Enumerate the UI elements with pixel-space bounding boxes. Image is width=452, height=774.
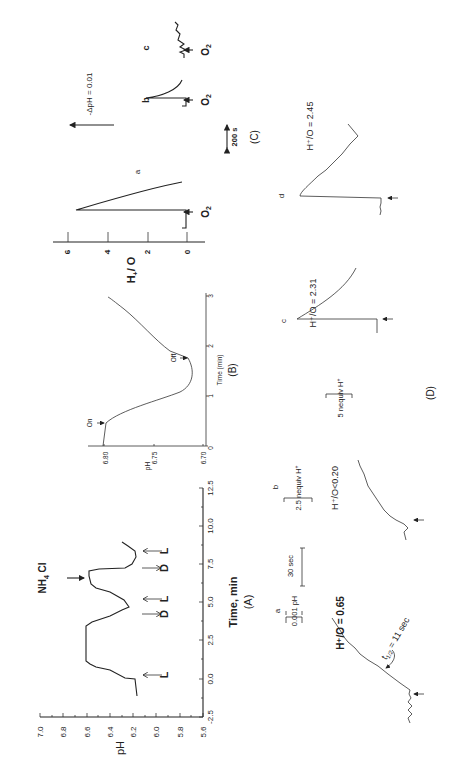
panel-c-ylabel: H+/ O — [125, 256, 139, 283]
panel-d-trace-b — [358, 460, 408, 540]
panel-a-time-ticks — [199, 488, 203, 717]
tick-label: 6.70 — [200, 451, 207, 464]
tick-label: 5.6 — [199, 726, 208, 738]
tick-label: 6.6 — [83, 726, 92, 738]
ratio-d-label: H⁺/O = 2.45 — [305, 102, 315, 151]
trace-a-label: a — [133, 169, 142, 174]
panel-c-label: (C) — [249, 130, 260, 144]
label-dark: D — [158, 564, 170, 572]
panel-a-label: (A) — [242, 595, 254, 610]
trace-c-label: c — [279, 319, 288, 323]
panel-c-trace-a — [76, 182, 186, 228]
figure-canvas: 12.5 10.0 7.5 5.0 2.5 0.0 -2.5 Time, min… — [0, 0, 452, 774]
panel-b-xlabel: Time (min) — [216, 355, 224, 386]
panel-a-ylabel: pH — [114, 741, 126, 755]
tick-label: 10.0 — [206, 518, 215, 534]
tick-label: 6.8 — [59, 726, 68, 738]
ph-scale-label: 0.001 pH — [290, 596, 299, 626]
trace-a-label: a — [273, 608, 282, 613]
panel-d: a 0.001 pH 30 sec b 2.5 nequiv H+ H⁺/O =… — [271, 102, 436, 723]
tick-label: 0 — [183, 249, 192, 254]
panel-a-xlabel: Time, min — [227, 576, 239, 627]
trace-d-label: d — [277, 194, 286, 198]
tick-label: 6 — [63, 249, 72, 254]
equiv-b-scale-label: 2.5 nequiv H+ — [293, 465, 303, 510]
tick-label: 3 — [207, 294, 214, 298]
panel-a-time-tick-labels: 12.5 10.0 7.5 5.0 2.5 0.0 -2.5 — [206, 480, 215, 724]
label-off: Off — [170, 354, 177, 363]
panel-a-annotations: L D L D L NH4 Cl — [37, 547, 170, 678]
tick-label: 12.5 — [206, 480, 215, 496]
ratio-c-label: H⁺/O = 2.31 — [308, 279, 318, 328]
panel-a-ph-tick-labels: 7.0 6.8 6.6 6.4 6.2 6.0 5.8 5.6 — [36, 726, 208, 738]
equiv-cd-scale-label: 5 nequiv H+ — [335, 379, 345, 418]
tick-label: 0.0 — [206, 673, 215, 685]
panel-a-ph-ticks — [40, 713, 203, 717]
tick-label: 2.5 — [206, 634, 215, 646]
tick-label: 0 — [207, 446, 214, 450]
label-dark: D — [158, 610, 170, 618]
label-light: L — [158, 595, 170, 602]
label-nh4cl: NH4 Cl — [37, 562, 50, 593]
dph-scale-label: -ΔpH = 0.01 — [85, 72, 94, 115]
trace-b-label: b — [141, 97, 151, 103]
label-on: On — [86, 418, 93, 427]
tick-label: 6.80 — [102, 451, 109, 464]
tick-label: 6.0 — [152, 726, 161, 738]
time-scale-label: 200 s — [230, 128, 239, 147]
panel-b: 3 2 1 0 6.80 6.75 6.70 pH Time (min) (B)… — [86, 293, 238, 470]
panel-d-label: (D) — [425, 386, 436, 400]
panel-c: 6 4 2 0 H+/ O O2 a O2 b O2 c -ΔpH = 0.01… — [53, 22, 260, 283]
panel-b-ph-trace — [103, 297, 192, 446]
thalf-label: t1/2 = 11 sec — [379, 615, 412, 662]
tick-label: 7.5 — [206, 558, 215, 570]
sec-scale-label: 30 sec — [286, 555, 295, 577]
tick-label: 4 — [103, 249, 112, 254]
tick-label: -2.5 — [206, 710, 215, 724]
panel-c-tick-labels: 6 4 2 0 — [63, 249, 192, 254]
label-o2: O2 — [200, 94, 212, 106]
tick-label: 1 — [207, 394, 214, 398]
tick-label: 2 — [143, 249, 152, 254]
tick-label: 6.4 — [106, 726, 115, 738]
label-light: L — [158, 671, 170, 678]
panel-b-label: (B) — [227, 363, 238, 376]
tick-label: 6.75 — [151, 451, 158, 464]
label-o2: O2 — [200, 44, 212, 56]
trace-c-label: c — [141, 45, 151, 50]
ratio-b-label: H⁺/O<0.20 — [330, 466, 340, 510]
label-light: L — [158, 547, 170, 554]
panel-a-ph-trace — [86, 542, 137, 696]
panel-c-trace-b — [146, 80, 186, 106]
tick-label: 6.2 — [129, 726, 138, 738]
tick-label: 2 — [207, 344, 214, 348]
trace-b-label: b — [271, 484, 280, 489]
tick-label: 7.0 — [36, 726, 45, 738]
tick-label: 5.8 — [176, 726, 185, 738]
ratio-a-label: H⁺/O = 0.65 — [335, 596, 346, 650]
panel-a: 12.5 10.0 7.5 5.0 2.5 0.0 -2.5 Time, min… — [36, 480, 254, 755]
panel-b-ylabel: pH — [144, 462, 152, 471]
panel-c-trace-c — [175, 22, 186, 58]
label-o2: O2 — [200, 206, 212, 218]
tick-label: 5.0 — [206, 596, 215, 608]
panel-b-tick-labels: 3 2 1 0 6.80 6.75 6.70 pH — [102, 294, 214, 470]
panel-c-ticks — [68, 232, 187, 242]
